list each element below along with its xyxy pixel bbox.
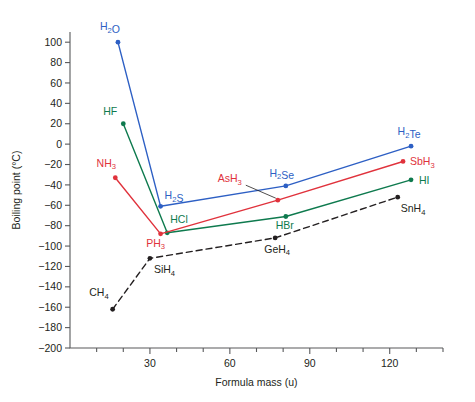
series-group-17-hydrides: HFHClHBrHI <box>103 105 429 235</box>
series-point-label: SiH4 <box>154 263 175 277</box>
x-tick-label: 60 <box>224 357 236 369</box>
y-tick-label: −180 <box>38 321 62 333</box>
series-point-label: SbH3 <box>410 155 435 169</box>
y-tick-label: −80 <box>44 219 62 231</box>
y-tick-label: 0 <box>56 138 62 150</box>
data-point <box>113 175 118 180</box>
series-point-label: HI <box>419 174 430 186</box>
y-tick-label: −40 <box>44 179 62 191</box>
y-tick-label: −100 <box>38 240 62 252</box>
series-point-label: CH4 <box>89 286 108 300</box>
data-point <box>283 184 288 189</box>
series-point-label: HCl <box>170 213 188 225</box>
series-point-label: HBr <box>276 219 295 231</box>
series-point-label: AsH3 <box>218 172 242 186</box>
series-point-label: NH3 <box>97 157 116 171</box>
series-line <box>113 197 398 309</box>
series-group-14-hydrides: CH4SiH4GeH4SnH4 <box>89 195 425 312</box>
data-point <box>158 231 163 236</box>
x-tick-label: 120 <box>381 357 399 369</box>
data-point <box>116 40 121 45</box>
series-line <box>118 42 411 206</box>
boiling-point-line-chart: 100806040200−20−40−60−80−100−120−140−160… <box>0 0 475 402</box>
y-tick-label: 100 <box>44 36 62 48</box>
series-point-label: H2S <box>165 189 184 203</box>
series-point-label: H2O <box>100 20 120 34</box>
data-point <box>110 307 115 312</box>
y-axis-title: Boiling point (°C) <box>10 151 22 230</box>
y-tick-label: −200 <box>38 342 62 354</box>
y-tick-label: 80 <box>50 56 62 68</box>
data-point <box>121 121 126 126</box>
y-tick-label: 60 <box>50 77 62 89</box>
data-point <box>395 195 400 200</box>
series-point-label: HF <box>103 105 117 117</box>
series-group-15-hydrides: NH3PH3AsH3SbH3 <box>97 155 435 251</box>
series-point-label: H2Te <box>398 125 421 139</box>
series-point-label: SnH4 <box>401 202 426 216</box>
series-point-label: H2Se <box>269 167 294 181</box>
series-point-label: GeH4 <box>264 243 290 257</box>
y-tick-label: −60 <box>44 199 62 211</box>
y-tick-label: −160 <box>38 301 62 313</box>
y-tick-label: 20 <box>50 117 62 129</box>
data-point <box>158 204 163 209</box>
y-tick-label: −140 <box>38 280 62 292</box>
series-group-16-hydrides: H2OH2SH2SeH2Te <box>100 20 421 209</box>
data-point <box>409 177 414 182</box>
data-point <box>148 256 153 261</box>
data-point <box>273 236 278 241</box>
data-point <box>409 144 414 149</box>
series-point-label: PH3 <box>146 237 165 251</box>
y-tick-label: −120 <box>38 260 62 272</box>
x-tick-label: 30 <box>144 357 156 369</box>
series-line <box>123 124 411 233</box>
data-point <box>401 159 406 164</box>
y-tick-label: −20 <box>44 158 62 170</box>
chart-root: 100806040200−20−40−60−80−100−120−140−160… <box>0 0 475 402</box>
y-tick-label: 40 <box>50 97 62 109</box>
x-axis-title: Formula mass (u) <box>215 376 297 388</box>
x-tick-label: 90 <box>304 357 316 369</box>
data-point <box>275 198 280 203</box>
